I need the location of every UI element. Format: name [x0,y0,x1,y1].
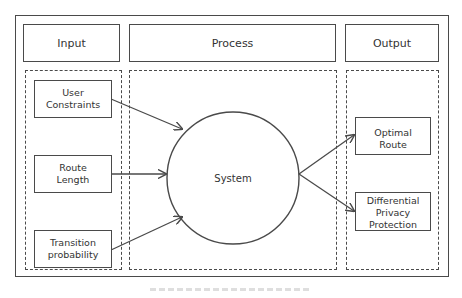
output-dp-line2: Privacy [367,207,420,219]
output-optimal-route-line1: Optimal [374,127,412,139]
input-user-constraints-line2: Constraints [46,99,100,111]
input-transition-probability-line1: Transition [48,237,99,249]
input-transition-probability: Transition probability [34,230,112,268]
header-input: Input [23,24,120,62]
output-optimal-route-line2: Route [374,139,412,151]
output-optimal-route: Optimal Route [355,117,431,155]
system-node-label: System [214,173,251,184]
system-node: System [183,168,283,188]
output-dp-line1: Differential [367,195,420,207]
output-differential-privacy-protection: Differential Privacy Protection [355,192,431,231]
input-route-length-line2: Length [57,174,90,186]
input-user-constraints-line1: User [46,87,100,99]
output-dp-line3: Protection [367,219,420,231]
caption-remnant [150,288,312,291]
input-user-constraints: User Constraints [34,80,112,118]
input-transition-probability-line2: probability [48,249,99,261]
header-output: Output [345,24,439,62]
output-region [346,70,439,270]
header-output-label: Output [373,37,411,50]
header-input-label: Input [57,37,85,50]
input-route-length-line1: Route [57,162,90,174]
input-route-length: Route Length [34,155,112,193]
header-process-label: Process [212,37,254,50]
header-process: Process [129,24,336,62]
